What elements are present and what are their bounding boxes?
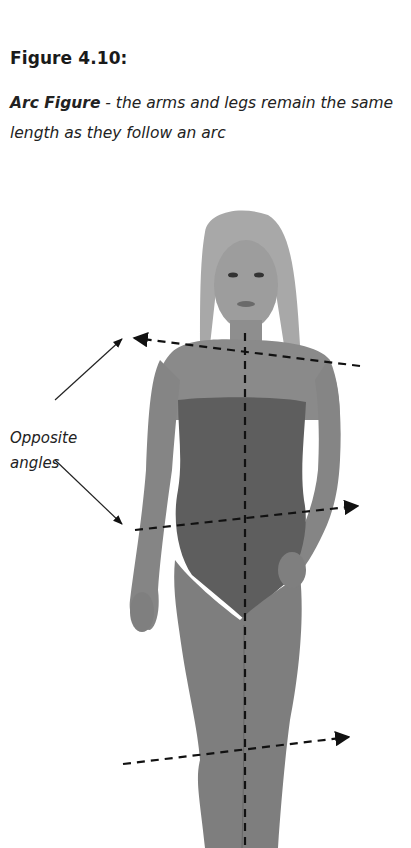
pointer-arrow-up-icon [55,339,122,400]
face [214,240,278,330]
opposite-angles-label: Oppositeangles [10,426,77,476]
annotation-label-line1: Opposite [10,429,77,447]
left-arm [130,360,180,630]
figure-caption-title: Arc Figure [10,94,100,112]
right-hand [278,552,306,588]
annotation-label-line2: angles [10,454,59,472]
model-photo [130,210,341,848]
figure-caption: Arc Figure - the arms and legs remain th… [10,88,410,148]
figure-illustration [0,200,411,848]
left-hand [130,592,154,632]
figure-number: Figure 4.10: [10,48,128,68]
figure-svg [0,200,411,848]
